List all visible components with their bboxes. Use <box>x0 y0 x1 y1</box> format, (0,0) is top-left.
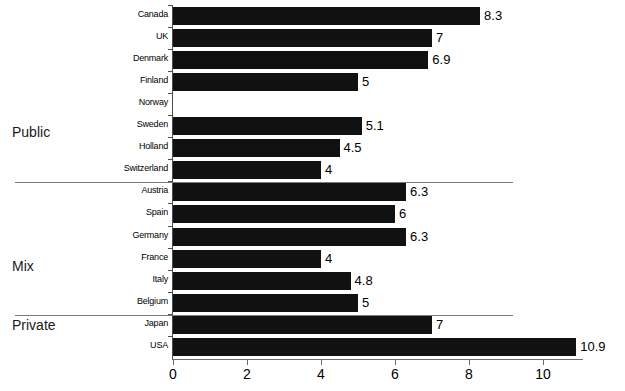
bar-row: Holland4.5 <box>0 137 625 159</box>
category-tick <box>168 203 173 204</box>
category-label: USA <box>150 340 168 351</box>
bar-row: Denmark6.9 <box>0 49 625 71</box>
category-label: Sweden <box>137 119 168 130</box>
bar-chart: Canada8.3UK7Denmark6.9Finland5NorwaySwed… <box>0 0 625 391</box>
x-axis-tick <box>469 360 470 365</box>
bar-value-label: 7 <box>436 317 443 332</box>
group-label-mix: Mix <box>12 258 34 274</box>
bar <box>173 205 395 223</box>
category-label: Denmark <box>133 53 168 64</box>
bar-row: Canada8.3 <box>0 5 625 27</box>
bar-row: Sweden5.1 <box>0 115 625 137</box>
category-label: Italy <box>152 274 168 285</box>
category-label: Canada <box>138 9 168 20</box>
bar-value-label: 8.3 <box>484 8 502 23</box>
bar-row: France4 <box>0 248 625 270</box>
bar-row: Italy4.8 <box>0 270 625 292</box>
x-axis-label: 4 <box>317 366 325 383</box>
bar-row: Germany6.3 <box>0 226 625 248</box>
bar <box>173 272 351 290</box>
bar-value-label: 6.9 <box>432 52 450 67</box>
bar-value-label: 5.1 <box>366 118 384 133</box>
category-tick <box>168 159 173 160</box>
bar <box>173 316 432 334</box>
bar <box>173 51 428 69</box>
bar <box>173 250 321 268</box>
category-label: Switzerland <box>124 163 168 174</box>
x-axis-line <box>172 359 583 360</box>
x-axis-tick <box>543 360 544 365</box>
x-axis-tick <box>247 360 248 365</box>
category-label: UK <box>156 31 168 42</box>
bar-value-label: 10.9 <box>580 339 605 354</box>
bar-row: UK7 <box>0 27 625 49</box>
bar <box>173 228 406 246</box>
category-tick <box>168 93 173 94</box>
category-tick <box>168 292 173 293</box>
bar <box>173 183 406 201</box>
group-label-public: Public <box>12 124 50 140</box>
bar-value-label: 4 <box>325 162 332 177</box>
category-tick <box>168 270 173 271</box>
category-label: Finland <box>140 75 168 86</box>
bar-row: Switzerland4 <box>0 159 625 181</box>
bar <box>173 29 432 47</box>
bar-value-label: 5 <box>362 74 369 89</box>
category-tick <box>168 49 173 50</box>
bar <box>173 139 340 157</box>
x-axis-label: 6 <box>391 366 399 383</box>
bar-value-label: 7 <box>436 30 443 45</box>
category-label: Japan <box>144 318 168 329</box>
bar-row: USA10.9 <box>0 336 625 358</box>
category-tick <box>168 248 173 249</box>
bar <box>173 161 321 179</box>
bar-row: Belgium5 <box>0 292 625 314</box>
bar-row: Spain6 <box>0 203 625 225</box>
bar-value-label: 5 <box>362 295 369 310</box>
bar <box>173 338 576 356</box>
x-axis-label: 10 <box>535 366 551 383</box>
x-axis-tick <box>173 360 174 365</box>
bar <box>173 73 358 91</box>
bar-row: Norway <box>0 93 625 115</box>
category-tick <box>168 336 173 337</box>
category-label: Germany <box>132 230 168 241</box>
bar-value-label: 4 <box>325 251 332 266</box>
group-separator-line <box>15 182 513 183</box>
category-label: Austria <box>141 185 168 196</box>
x-axis-label: 0 <box>169 366 177 383</box>
bar <box>173 7 480 25</box>
category-tick <box>168 115 173 116</box>
category-label: Belgium <box>137 296 168 307</box>
bar-value-label: 6 <box>399 206 406 221</box>
x-axis-tick <box>395 360 396 365</box>
bar-value-label: 4.5 <box>344 140 362 155</box>
category-tick <box>168 27 173 28</box>
category-label: Holland <box>139 141 168 152</box>
x-axis-label: 8 <box>465 366 473 383</box>
category-tick <box>168 71 173 72</box>
x-axis-label: 2 <box>243 366 251 383</box>
bar-value-label: 6.3 <box>410 229 428 244</box>
bar-row: Japan7 <box>0 314 625 336</box>
bar-value-label: 6.3 <box>410 184 428 199</box>
x-axis-tick <box>321 360 322 365</box>
bar <box>173 294 358 312</box>
category-tick <box>168 226 173 227</box>
bar-row: Finland5 <box>0 71 625 93</box>
group-separator-line <box>15 315 513 316</box>
category-label: Spain <box>146 207 168 218</box>
category-tick <box>168 137 173 138</box>
bar-value-label: 4.8 <box>355 273 373 288</box>
category-label: Norway <box>139 97 168 108</box>
category-label: France <box>141 252 168 263</box>
category-tick <box>168 5 173 6</box>
bar-row: Austria6.3 <box>0 181 625 203</box>
bar <box>173 117 362 135</box>
group-label-private: Private <box>12 317 56 333</box>
